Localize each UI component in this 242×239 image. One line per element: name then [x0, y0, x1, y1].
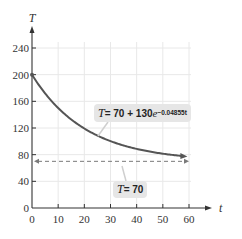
- svg-text:40: 40: [131, 213, 143, 225]
- eq-exponent: −0.04855t: [157, 109, 186, 116]
- svg-text:0: 0: [24, 202, 30, 214]
- svg-text:40: 40: [18, 175, 30, 187]
- grid-lines: [32, 42, 191, 208]
- eq-rhs: = 70 + 130: [105, 108, 153, 119]
- svg-text:160: 160: [13, 95, 30, 107]
- svg-text:120: 120: [13, 122, 30, 134]
- svg-text:80: 80: [18, 149, 30, 161]
- tick-labels: 010203040506004080120160200240: [13, 42, 196, 225]
- y-axis-title: T: [29, 11, 37, 25]
- eq-lhs: T: [98, 106, 105, 121]
- asymptote-equation-label: T = 70: [113, 181, 147, 198]
- svg-text:20: 20: [79, 213, 91, 225]
- callout-leaders: [30, 73, 189, 181]
- svg-text:0: 0: [29, 213, 35, 225]
- svg-text:30: 30: [105, 213, 117, 225]
- x-axis-title: t: [219, 201, 223, 215]
- asym-rhs: = 70: [124, 184, 144, 195]
- svg-text:10: 10: [53, 213, 65, 225]
- svg-text:200: 200: [13, 69, 30, 81]
- svg-text:240: 240: [13, 42, 30, 54]
- svg-text:50: 50: [157, 213, 169, 225]
- curve-equation-label: T = 70 + 130 e −0.04855t: [94, 104, 191, 122]
- asym-lhs: T: [117, 182, 124, 197]
- svg-text:60: 60: [184, 213, 196, 225]
